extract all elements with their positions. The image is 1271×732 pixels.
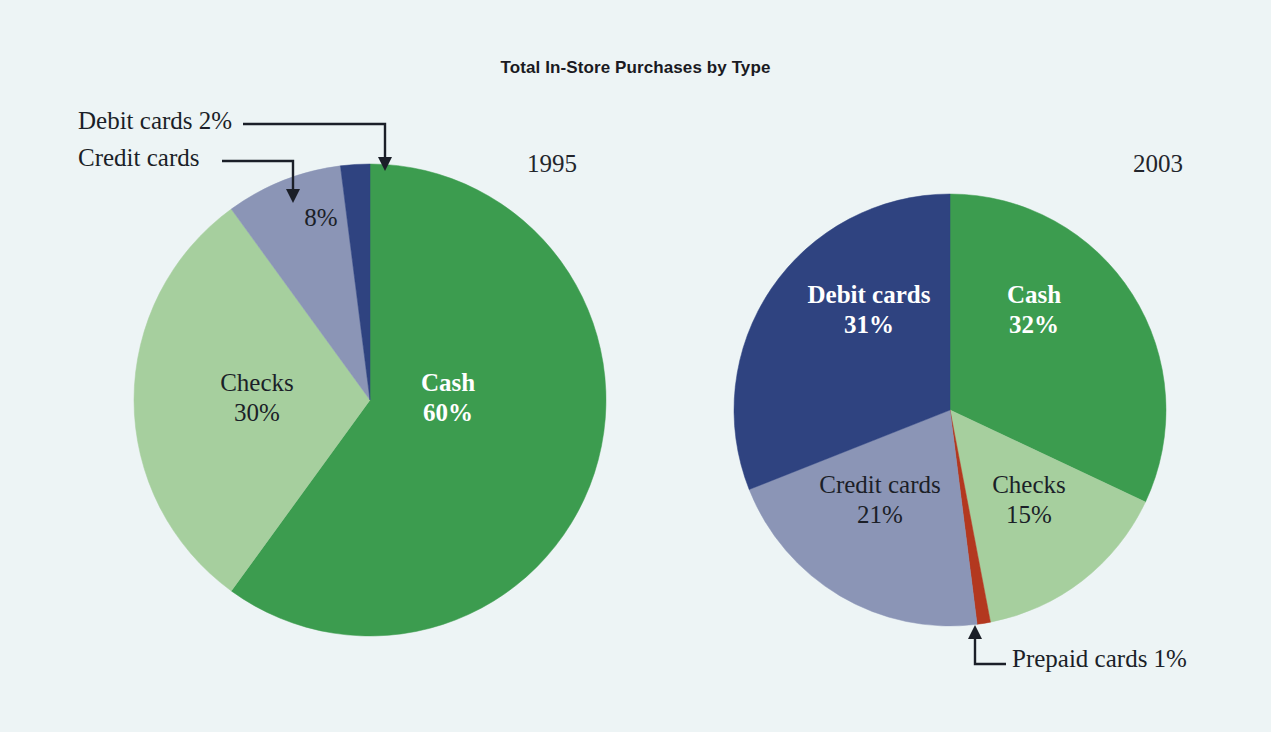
slice-label-name: Checks xyxy=(220,368,294,398)
slice-label-1995-credit-cards: 8% xyxy=(304,203,337,233)
slice-label-value: 60% xyxy=(421,398,475,428)
slice-label-value: 15% xyxy=(992,500,1066,530)
chart-title: Total In-Store Purchases by Type xyxy=(0,58,1271,78)
slice-label-value: 21% xyxy=(819,500,940,530)
slice-label-1995-checks: Checks30% xyxy=(220,368,294,428)
slice-label-name: Credit cards xyxy=(819,470,940,500)
callout-label-credit-cards: Credit cards xyxy=(78,144,199,172)
callout-line-prepaid-cards-1 xyxy=(975,638,1006,664)
callout-label-debit-cards-2: Debit cards 2% xyxy=(78,107,232,135)
year-label-1995: 1995 xyxy=(527,150,577,178)
slice-label-name: Cash xyxy=(1007,280,1061,310)
slice-label-value: 31% xyxy=(808,310,931,340)
callout-line-debit-cards-2 xyxy=(243,124,385,158)
slice-label-1995-cash: Cash60% xyxy=(421,368,475,428)
slice-label-2003-credit-cards: Credit cards21% xyxy=(819,470,940,530)
callout-label-prepaid-cards-1: Prepaid cards 1% xyxy=(1012,645,1187,673)
slice-label-2003-debit-cards: Debit cards31% xyxy=(808,280,931,340)
slice-label-value: 30% xyxy=(220,398,294,428)
slice-label-name: Debit cards xyxy=(808,280,931,310)
pie-chart-figure: Total In-Store Purchases by Type 1995 20… xyxy=(0,0,1271,732)
year-label-2003: 2003 xyxy=(1133,150,1183,178)
slice-label-name: Cash xyxy=(421,368,475,398)
slice-label-2003-cash: Cash32% xyxy=(1007,280,1061,340)
slice-label-name: Checks xyxy=(992,470,1066,500)
slice-label-2003-checks: Checks15% xyxy=(992,470,1066,530)
slice-label-value: 8% xyxy=(304,203,337,233)
callout-arrow-prepaid-cards-1 xyxy=(968,625,982,639)
slice-label-value: 32% xyxy=(1007,310,1061,340)
